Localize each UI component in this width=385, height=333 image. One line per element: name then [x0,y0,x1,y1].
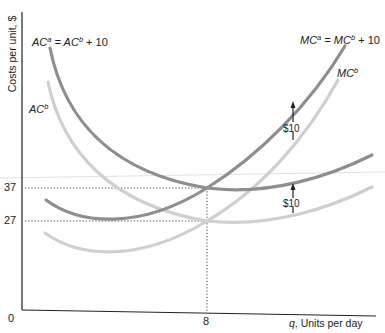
mc-a-eq: = MC [321,34,351,46]
label-mc-b: MCb [337,68,358,79]
shift-label-mc: $10 [283,124,300,134]
ac-b-base: AC [29,103,44,115]
ac-a-base: AC [32,36,47,48]
label-ac-b: ACb [29,104,48,115]
origin-label: 0 [8,313,14,324]
mc-a-base: MC [300,34,317,46]
x-tick-8: 8 [203,316,209,327]
curve-ac-a [50,48,372,190]
x-axis-label: q, Units per day [289,318,363,329]
y-tick-37: 37 [4,182,16,193]
x-axis [22,310,376,316]
arrowhead-mc-icon [291,101,296,108]
label-mc-a: MCa = MCb + 10 [300,35,380,46]
label-ac-a: ACa = ACb + 10 [32,37,108,48]
y-axis-label: Costs per unit, $ [6,4,18,104]
mc-b-sup: b [354,66,358,75]
y-tick-27: 27 [4,215,16,226]
ac-b-sup: b [44,102,48,111]
cost-curves-chart [0,0,385,333]
shift-label-ac: $10 [283,199,300,209]
mc-b-base: MC [337,67,354,79]
x-axis-text: , Units per day [295,317,363,329]
ac-a-tail: + 10 [83,36,108,48]
ac-a-eq: = AC [51,36,78,48]
mc-a-tail: + 10 [355,34,380,46]
